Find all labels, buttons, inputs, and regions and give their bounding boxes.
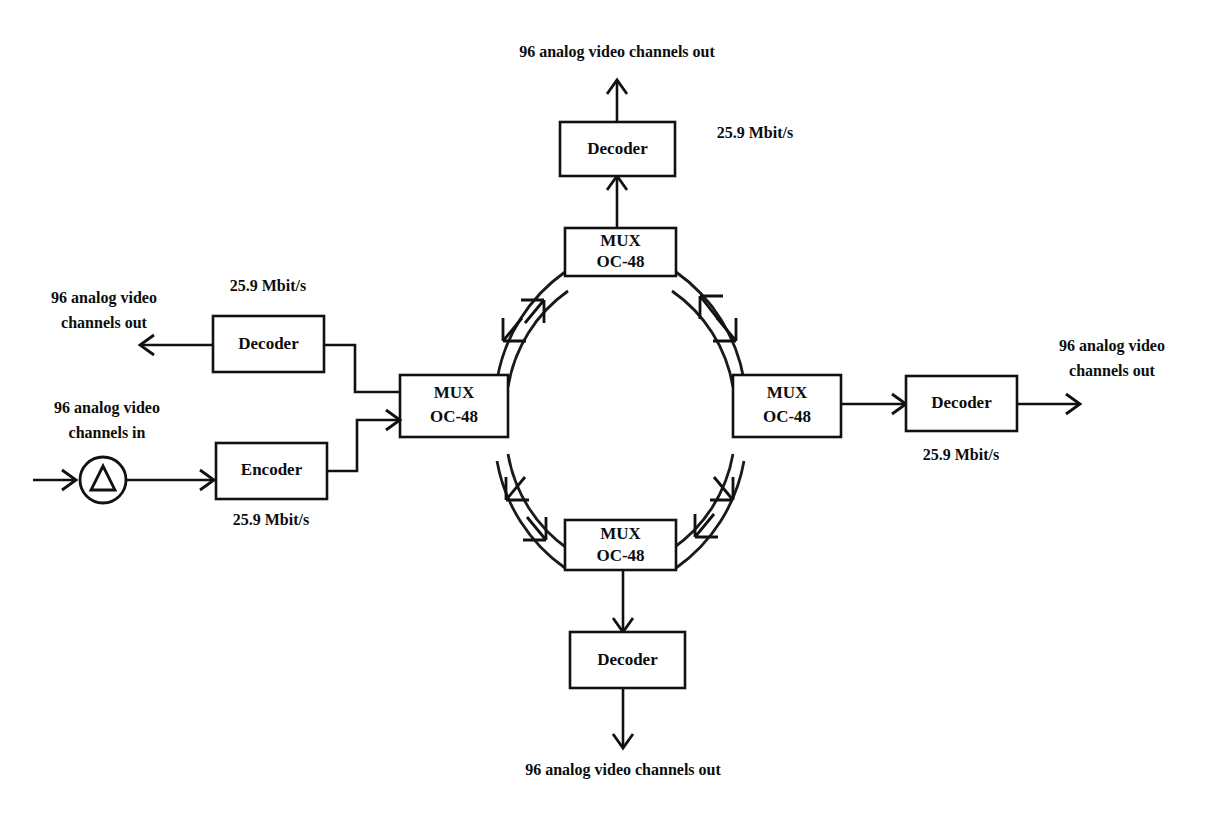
node-mux-left-label-line2: OC-48: [430, 407, 478, 426]
node-group-mux-bottom: MUX OC-48: [565, 520, 676, 570]
node-decoder-bottom-label: Decoder: [597, 650, 658, 669]
node-mux-left-label-line1: MUX: [434, 383, 475, 402]
node-decoder-right-label: Decoder: [931, 393, 992, 412]
annot-left-channels-out-line2: channels out: [61, 314, 147, 331]
annot-bottom-channels-out: 96 analog video channels out: [525, 761, 721, 779]
node-mux-top-label-line2: OC-48: [596, 252, 644, 271]
node-mux-right-label-line2: OC-48: [763, 407, 811, 426]
network-diagram: Decoder 25.9 Mbit/s 96 analog video chan…: [0, 0, 1209, 818]
annot-left-channels-in-line2: channels in: [69, 424, 146, 441]
node-group-mux-top: MUX OC-48: [565, 228, 676, 276]
node-mux-top-label-line1: MUX: [600, 231, 641, 250]
annot-left-channels-in-line1: 96 analog video: [54, 399, 160, 417]
node-decoder-left-label: Decoder: [238, 334, 299, 353]
node-mux-bottom-label-line2: OC-48: [596, 546, 644, 565]
diagram-canvas: Decoder 25.9 Mbit/s 96 analog video chan…: [0, 0, 1209, 818]
node-group-mux-left: MUX OC-48: [400, 375, 508, 437]
rate-left-decoder: 25.9 Mbit/s: [230, 277, 306, 294]
node-mux-right-label-line1: MUX: [767, 383, 808, 402]
node-encoder-left-label: Encoder: [241, 460, 303, 479]
node-group-mux-right: MUX OC-48: [733, 375, 841, 437]
node-decoder-top-label: Decoder: [587, 139, 648, 158]
annot-right-channels-out-line1: 96 analog video: [1059, 337, 1165, 355]
rate-left-encoder: 25.9 Mbit/s: [233, 511, 309, 528]
rate-top-decoder: 25.9 Mbit/s: [717, 124, 793, 141]
annot-top-channels-out: 96 analog video channels out: [519, 43, 715, 61]
node-mux-bottom-label-line1: MUX: [600, 524, 641, 543]
annot-left-channels-out-line1: 96 analog video: [51, 289, 157, 307]
annot-right-channels-out-line2: channels out: [1069, 362, 1155, 379]
rate-right-decoder: 25.9 Mbit/s: [923, 446, 999, 463]
